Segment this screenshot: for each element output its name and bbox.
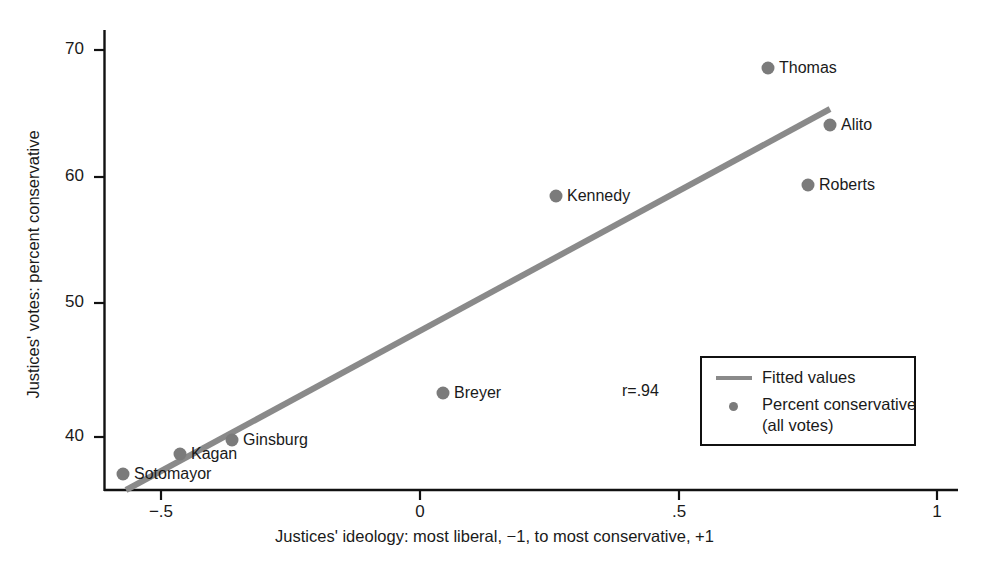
y-axis-ticks — [94, 50, 104, 437]
point-label-ginsburg: Ginsburg — [243, 431, 308, 449]
legend-entry-fitted-values: Fitted values — [702, 366, 914, 390]
data-point-breyer — [437, 387, 450, 400]
x-tick-label-zero: 0 — [390, 502, 450, 522]
y-tick-label-60: 60 — [44, 166, 84, 186]
point-label-thomas: Thomas — [779, 59, 837, 77]
legend-label-percent-conservative: Percent conservative (all votes) — [762, 394, 916, 436]
chart-legend: Fitted values Percent conservative (all … — [700, 356, 916, 446]
y-axis-title: Justices' votes: percent conservative — [24, 50, 43, 480]
x-tick-label-one: 1 — [907, 502, 967, 522]
point-label-roberts: Roberts — [819, 176, 875, 194]
legend-line-swatch-icon — [712, 366, 756, 390]
data-point-kagan — [174, 448, 187, 461]
point-label-breyer: Breyer — [454, 384, 501, 402]
y-tick-label-50: 50 — [44, 292, 84, 312]
legend-label-line1: Percent conservative — [762, 395, 916, 413]
plot-canvas — [0, 0, 989, 574]
legend-entry-percent-conservative: Percent conservative (all votes) — [702, 394, 914, 418]
data-point-kennedy — [550, 190, 563, 203]
data-point-sotomayor — [117, 468, 130, 481]
point-label-alito: Alito — [841, 116, 872, 134]
data-point-alito — [824, 119, 837, 132]
scatter-plot-figure: 70 60 50 40 −.5 0 .5 1 Justices' votes: … — [0, 0, 989, 574]
x-axis-title: Justices' ideology: most liberal, −1, to… — [0, 527, 989, 546]
y-tick-label-40: 40 — [44, 426, 84, 446]
legend-label-fitted-values: Fitted values — [762, 367, 856, 388]
data-point-thomas — [762, 62, 775, 75]
correlation-annotation: r=.94 — [622, 382, 659, 400]
y-tick-label-70: 70 — [44, 39, 84, 59]
point-label-kagan: Kagan — [191, 445, 237, 463]
data-point-roberts — [802, 179, 815, 192]
x-tick-label-half: .5 — [649, 502, 709, 522]
point-label-sotomayor: Sotomayor — [134, 465, 211, 483]
x-tick-label-neg-half: −.5 — [131, 502, 191, 522]
legend-label-line2: (all votes) — [762, 415, 916, 436]
x-axis-ticks — [161, 490, 937, 500]
point-label-kennedy: Kennedy — [567, 187, 630, 205]
legend-dot-swatch-icon — [712, 394, 756, 418]
